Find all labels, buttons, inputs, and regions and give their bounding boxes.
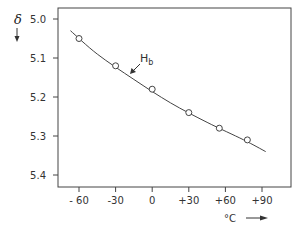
data-point (76, 36, 82, 42)
data-points (76, 36, 250, 143)
x-tick-label: +90 (251, 195, 272, 206)
down-arrow-icon (15, 28, 20, 42)
annotation-arrow-icon (130, 64, 140, 74)
y-axis: 5.05.15.25.35.4 (30, 14, 58, 181)
x-tick-label: +60 (215, 195, 236, 206)
x-tick-label: -30 (107, 195, 123, 206)
plot-frame (58, 8, 291, 187)
y-tick-label: 5.0 (30, 14, 46, 25)
y-tick-label: 5.3 (30, 131, 46, 142)
x-tick-label: - 60 (69, 195, 89, 206)
data-point (113, 63, 119, 69)
data-point (149, 86, 155, 92)
x-axis-label: °C (224, 213, 236, 224)
x-tick-label: 0 (149, 195, 155, 206)
data-point (244, 137, 250, 143)
x-tick-label: +30 (178, 195, 199, 206)
y-axis-label: δ (14, 12, 22, 27)
y-tick-label: 5.4 (30, 170, 46, 181)
data-point (186, 110, 192, 116)
y-tick-label: 5.1 (30, 53, 46, 64)
y-tick-label: 5.2 (30, 92, 46, 103)
chart: 5.05.15.25.35.4 - 60-300+30+60+90 δ °C H… (0, 0, 299, 230)
data-point (216, 125, 222, 131)
x-axis: - 60-300+30+60+90 (69, 187, 272, 206)
right-arrow-icon (246, 216, 268, 221)
curve-label: Hb (140, 52, 153, 67)
fit-curve (70, 31, 265, 152)
